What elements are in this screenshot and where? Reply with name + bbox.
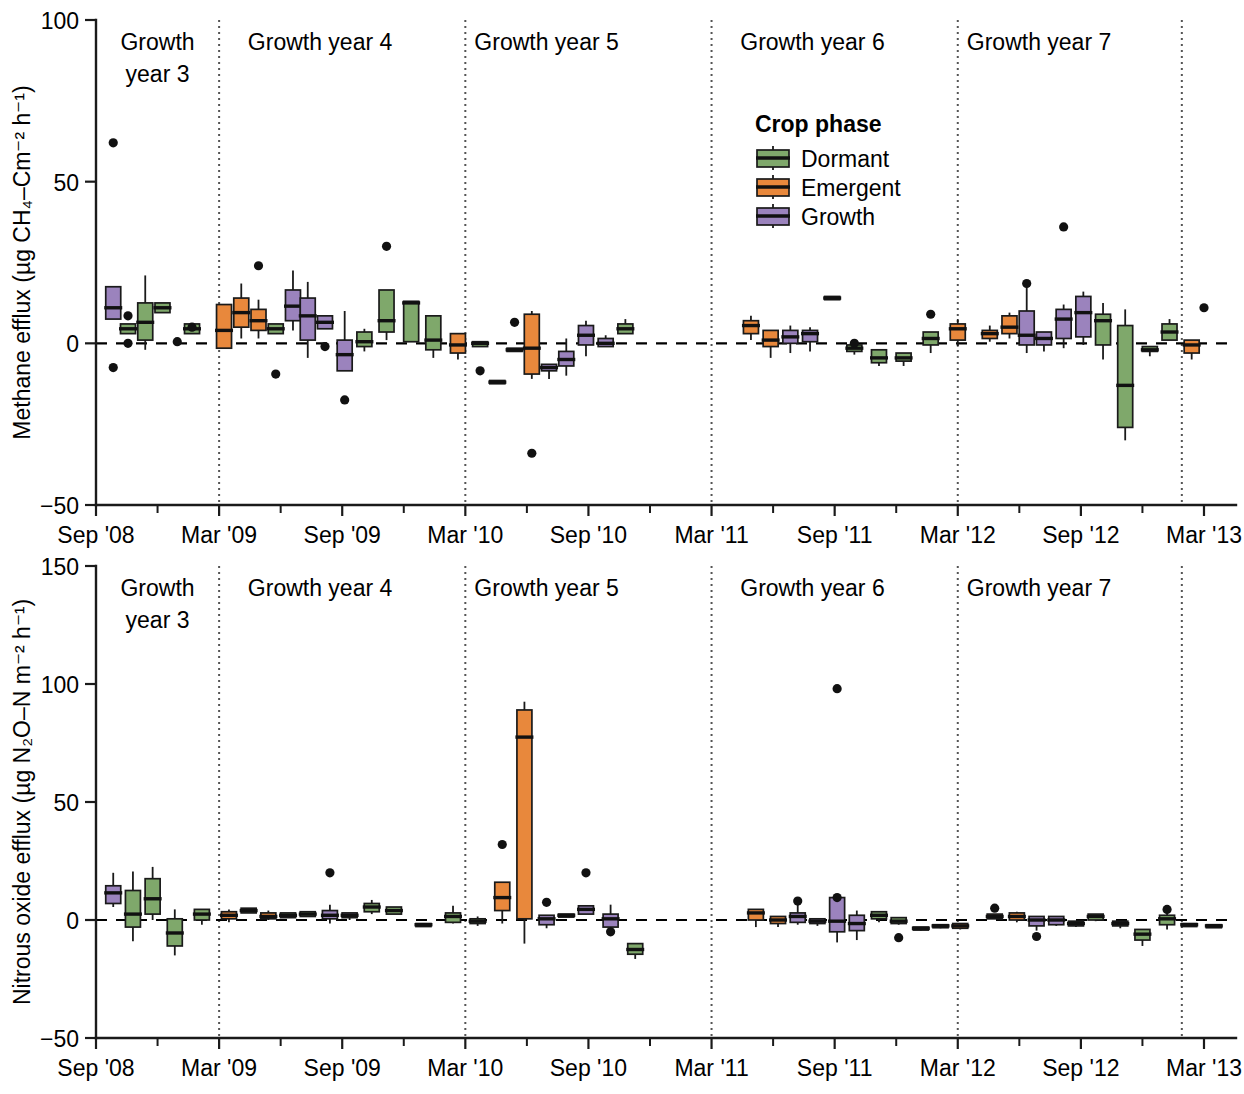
box-body	[379, 290, 394, 332]
boxplot-dormant	[1161, 319, 1179, 340]
x-axis-tick-label: Sep '09	[304, 1055, 381, 1081]
box-body	[1002, 316, 1017, 334]
era-label: Growth year 5	[474, 575, 618, 601]
boxplot-growth	[104, 873, 122, 907]
boxplot-dormant	[378, 290, 396, 340]
boxplot-dormant	[153, 303, 171, 313]
boxplot-growth	[1067, 921, 1085, 927]
outlier-point	[793, 897, 802, 906]
boxplot-dormant	[279, 913, 297, 918]
outlier-point	[542, 898, 551, 907]
boxplot-growth	[848, 911, 866, 941]
boxplot-growth	[823, 296, 841, 299]
y-axis-title: Nitrous oxide efflux (µg N₂O–N m⁻² h⁻¹)	[9, 599, 35, 1005]
figure-root: −50050100Sep '08Mar '09Sep '09Mar '10Sep…	[0, 0, 1244, 1094]
x-axis-tick-label: Mar '10	[427, 522, 503, 548]
y-axis-tick-label: 150	[41, 554, 79, 580]
box-body	[125, 891, 140, 928]
boxplot-dormant	[932, 925, 950, 929]
era-label: Growth year 4	[248, 575, 393, 601]
x-axis-tick-label: Mar '11	[674, 1055, 748, 1081]
boxplot-growth	[1035, 332, 1053, 351]
y-axis-title: Methane efflux (µg CH₄–Cm⁻² h⁻¹)	[9, 85, 35, 439]
box-body	[1076, 296, 1091, 336]
boxplot-growth	[557, 914, 575, 917]
boxplot-growth	[284, 271, 302, 331]
boxplot-emergent	[515, 702, 533, 944]
x-axis-tick-label: Mar '13	[1166, 522, 1242, 548]
legend-entry-growth: Growth	[756, 204, 875, 230]
outlier-point	[123, 339, 132, 348]
box-body	[950, 324, 965, 340]
legend-entry-label: Dormant	[801, 146, 890, 172]
boxplot-dormant	[922, 332, 940, 353]
era-label: Growth year 7	[967, 29, 1111, 55]
boxplot-dormant	[119, 324, 137, 334]
boxplot-growth	[577, 321, 595, 357]
legend-entry-label: Growth	[801, 204, 875, 230]
boxplot-dormant	[363, 900, 381, 914]
boxplot-growth	[828, 898, 846, 943]
outlier-point	[476, 366, 485, 375]
y-axis-tick-label: −50	[40, 1026, 79, 1052]
outlier-point	[254, 261, 263, 270]
boxplot-growth	[808, 919, 826, 926]
y-axis-tick-label: 100	[41, 8, 79, 34]
boxplot-emergent	[232, 284, 250, 339]
box-body	[524, 314, 539, 374]
outlier-point	[894, 933, 903, 942]
boxplot-emergent	[250, 300, 268, 339]
box-body	[1056, 309, 1071, 338]
boxplot-growth	[801, 327, 819, 351]
box-body	[517, 710, 532, 919]
x-axis-tick-label: Sep '08	[57, 522, 134, 548]
boxplot-dormant	[890, 918, 908, 925]
x-axis-tick-label: Mar '11	[674, 522, 748, 548]
outlier-point	[850, 339, 859, 348]
boxplot-dormant	[870, 350, 888, 366]
boxplot-emergent	[742, 316, 760, 340]
x-axis-tick-label: Mar '12	[920, 1055, 996, 1081]
outlier-point	[109, 138, 118, 147]
outlier-point	[1199, 303, 1208, 312]
boxplot-dormant	[1141, 347, 1159, 357]
box-body	[1096, 314, 1111, 345]
y-axis-tick-label: −50	[40, 493, 79, 519]
x-axis-tick-label: Mar '12	[920, 522, 996, 548]
box-body	[748, 909, 763, 920]
boxplot-emergent	[1008, 912, 1026, 923]
boxplot-dormant	[240, 908, 258, 913]
era-label: year 3	[126, 607, 190, 633]
outlier-point	[1162, 905, 1171, 914]
box-body	[830, 898, 845, 932]
nitrous-panel: −50050100150Sep '08Mar '09Sep '09Mar '10…	[0, 546, 1244, 1094]
boxplot-dormant	[144, 867, 162, 920]
boxplot-emergent	[449, 334, 467, 360]
outlier-point	[833, 684, 842, 693]
outlier-point	[510, 318, 519, 327]
boxplot-growth	[316, 316, 334, 329]
boxplot-dormant	[136, 275, 154, 349]
boxplot-growth	[781, 326, 799, 353]
box-body	[217, 305, 232, 349]
box-body	[1019, 311, 1034, 345]
boxplot-growth	[104, 287, 122, 319]
boxplot-dormant	[471, 342, 489, 347]
boxplot-growth	[1018, 284, 1036, 354]
box-body	[300, 298, 315, 340]
outlier-point	[581, 868, 590, 877]
boxplot-growth	[1074, 292, 1092, 345]
boxplot-emergent	[523, 311, 541, 379]
era-label: Growth year 7	[967, 575, 1111, 601]
legend-entry-dormant: Dormant	[756, 146, 890, 172]
outlier-point	[382, 242, 391, 251]
outlier-point	[320, 342, 329, 351]
x-axis-tick-label: Sep '10	[550, 522, 627, 548]
x-axis-tick-label: Sep '11	[797, 522, 873, 548]
boxplot-dormant	[385, 907, 403, 914]
era-label: Growth year 5	[474, 29, 618, 55]
nitrous-chart-svg: −50050100150Sep '08Mar '09Sep '09Mar '10…	[0, 546, 1244, 1094]
boxplot-growth	[789, 905, 807, 925]
boxplot-emergent	[981, 326, 999, 342]
plot-area-methane: −50050100Sep '08Mar '09Sep '09Mar '10Sep…	[9, 8, 1242, 548]
